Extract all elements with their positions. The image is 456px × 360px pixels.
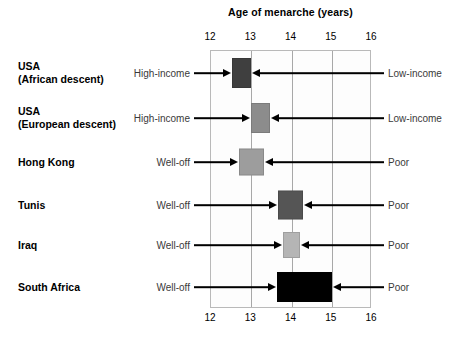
left-arrow-head-usa-european-descent <box>242 114 250 122</box>
right-condition-usa-european-descent: Low-income <box>388 113 442 124</box>
left-condition-usa-african-descent: High-income <box>128 68 190 79</box>
row-label-hong-kong: Hong Kong <box>18 156 75 169</box>
x-tick-label-15-top: 15 <box>319 31 343 42</box>
left-condition-tunis: Well-off <box>128 200 190 211</box>
row-label-iraq: Iraq <box>18 239 37 252</box>
right-arrow-head-iraq <box>301 241 309 249</box>
left-arrow-head-south-africa <box>268 283 276 291</box>
right-arrow-head-south-africa <box>333 283 341 291</box>
x-tick-label-14-bottom: 14 <box>279 312 303 323</box>
left-arrow-line-usa-european-descent <box>194 117 242 119</box>
right-arrow-line-usa-european-descent <box>279 117 384 119</box>
right-arrow-head-usa-european-descent <box>271 114 279 122</box>
left-arrow-head-iraq <box>274 241 282 249</box>
right-arrow-head-tunis <box>304 201 312 209</box>
bar-iraq <box>283 232 300 258</box>
x-tick-label-12-top: 12 <box>198 31 222 42</box>
x-tick-label-16-top: 16 <box>359 31 383 42</box>
row-label-tunis: Tunis <box>18 199 45 212</box>
left-condition-south-africa: Well-off <box>128 282 190 293</box>
right-arrow-head-usa-african-descent <box>252 69 260 77</box>
chart-figure: Age of menarche (years) Low-incomeLow-in… <box>0 0 456 360</box>
right-arrow-line-usa-african-descent <box>260 72 384 74</box>
left-arrow-head-hong-kong <box>230 158 238 166</box>
left-condition-hong-kong: Well-off <box>128 157 190 168</box>
right-condition-tunis: Poor <box>388 200 409 211</box>
gridline-14 <box>292 51 293 307</box>
bar-usa-african-descent <box>232 58 251 88</box>
left-arrow-head-usa-african-descent <box>223 69 231 77</box>
gridline-15 <box>332 51 333 307</box>
x-tick-label-13-bottom: 13 <box>238 312 262 323</box>
left-condition-iraq: Well-off <box>128 240 190 251</box>
right-condition-south-africa: Poor <box>388 282 409 293</box>
right-arrow-head-hong-kong <box>265 158 273 166</box>
right-arrow-line-iraq <box>309 244 384 246</box>
row-label-south-africa: South Africa <box>18 281 80 294</box>
right-arrow-line-hong-kong <box>273 161 384 163</box>
bar-hong-kong <box>239 149 264 176</box>
bar-usa-european-descent <box>251 103 270 133</box>
right-arrow-line-tunis <box>312 204 384 206</box>
row-label-usa-european-descent: USA (European descent) <box>18 105 116 131</box>
x-tick-label-14-top: 14 <box>279 31 303 42</box>
left-arrow-line-tunis <box>194 204 269 206</box>
x-tick-label-13-top: 13 <box>238 31 262 42</box>
right-condition-iraq: Poor <box>388 240 409 251</box>
left-arrow-line-south-africa <box>194 286 268 288</box>
left-arrow-line-usa-african-descent <box>194 72 223 74</box>
plot-area <box>210 50 371 308</box>
x-tick-label-15-bottom: 15 <box>319 312 343 323</box>
x-tick-label-16-bottom: 16 <box>359 312 383 323</box>
left-arrow-line-iraq <box>194 244 274 246</box>
right-arrow-line-south-africa <box>341 286 384 288</box>
left-arrow-line-hong-kong <box>194 161 230 163</box>
right-condition-hong-kong: Poor <box>388 157 409 168</box>
left-arrow-head-tunis <box>269 201 277 209</box>
bar-south-africa <box>277 272 332 302</box>
x-tick-label-12-bottom: 12 <box>198 312 222 323</box>
chart-title: Age of menarche (years) <box>210 6 371 18</box>
left-condition-usa-european-descent: High-income <box>128 113 190 124</box>
bar-tunis <box>278 191 302 220</box>
right-condition-usa-african-descent: Low-income <box>388 68 442 79</box>
row-label-usa-african-descent: USA (African descent) <box>18 60 104 86</box>
gridline-13 <box>251 51 252 307</box>
